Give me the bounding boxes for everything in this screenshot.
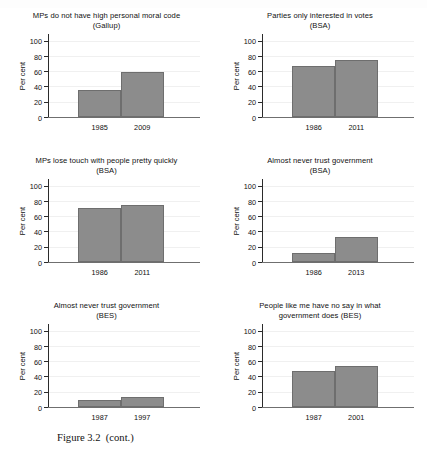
chart-title-line2: (Gallup) xyxy=(4,21,209,31)
x-tick-label: 2013 xyxy=(348,268,364,277)
plot-area-top-right: Per cent02040608010019862011 xyxy=(262,34,414,118)
y-axis-label: Per cent xyxy=(18,207,27,235)
chart-title-bottom-right: People like me have no say in whatgovern… xyxy=(217,301,423,320)
y-tick-label: 80 xyxy=(248,53,256,60)
chart-title-line2: (BSA) xyxy=(217,166,423,176)
bar-series xyxy=(48,324,200,407)
y-tick-label: 40 xyxy=(248,374,256,381)
chart-title-line2: government does (BES) xyxy=(217,311,423,321)
chart-title-line1: MPs do not have high personal moral code xyxy=(4,11,209,21)
y-tick-label: 60 xyxy=(34,69,42,76)
chart-panel-bottom-left: Almost never trust government(BES)Per ce… xyxy=(0,298,213,420)
chart-panel-middle-right: Almost never trust government(BSA)Per ce… xyxy=(213,153,427,298)
y-tick-label: 60 xyxy=(248,69,256,76)
bar xyxy=(78,208,121,262)
y-tick-label: 20 xyxy=(248,389,256,396)
x-tick-label: 1987 xyxy=(92,413,108,422)
x-tick-label: 1987 xyxy=(306,413,322,422)
y-tick-label: 100 xyxy=(244,328,256,335)
plot-area-bottom-right: Per cent02040608010019872001 xyxy=(262,324,414,408)
bar xyxy=(335,237,378,262)
x-tick-label: 1997 xyxy=(134,413,150,422)
x-tick-label: 1986 xyxy=(306,268,322,277)
y-tick-label: 100 xyxy=(244,38,256,45)
y-axis-label: Per cent xyxy=(232,352,241,380)
chart-title-line1: People like me have no say in what xyxy=(217,301,423,311)
chart-panel-middle-left: MPs lose touch with people pretty quickl… xyxy=(0,153,213,298)
chart-title-line1: Parties only interested in votes xyxy=(217,11,423,21)
bar-series xyxy=(262,179,414,262)
chart-panel-bottom-right: People like me have no say in whatgovern… xyxy=(213,298,427,420)
y-axis-label: Per cent xyxy=(232,62,241,90)
plot-area-middle-left: Per cent02040608010019862011 xyxy=(48,179,200,263)
y-tick-label: 40 xyxy=(248,229,256,236)
chart-title-middle-left: MPs lose touch with people pretty quickl… xyxy=(4,156,209,175)
y-tick-label: 60 xyxy=(248,359,256,366)
y-tick-label: 40 xyxy=(34,229,42,236)
chart-title-line1: Almost never trust government xyxy=(4,301,209,311)
chart-title-line2: (BSA) xyxy=(217,21,423,31)
x-tick-label: 1985 xyxy=(92,123,108,132)
y-tick-label: 40 xyxy=(248,84,256,91)
plot-area-bottom-left: Per cent02040608010019871997 xyxy=(48,324,200,408)
x-axis-line xyxy=(262,117,414,118)
bar-series xyxy=(48,179,200,262)
y-tick-label: 60 xyxy=(248,214,256,221)
y-tick-label: 80 xyxy=(248,343,256,350)
x-tick-label: 2011 xyxy=(348,123,364,132)
bar xyxy=(121,397,164,407)
bar xyxy=(121,205,164,262)
x-axis-line xyxy=(262,262,414,263)
y-tick-label: 80 xyxy=(248,198,256,205)
y-tick-label: 0 xyxy=(38,259,42,266)
chart-title-bottom-left: Almost never trust government(BES) xyxy=(4,301,209,320)
chart-panel-top-left: MPs do not have high personal moral code… xyxy=(0,8,213,153)
bar-series xyxy=(48,34,200,117)
plot-area-top-left: Per cent02040608010019852009 xyxy=(48,34,200,118)
bar xyxy=(78,90,121,117)
x-axis-line xyxy=(48,407,200,408)
y-tick-label: 100 xyxy=(244,183,256,190)
chart-title-top-left: MPs do not have high personal moral code… xyxy=(4,11,209,30)
bar-series xyxy=(262,34,414,117)
chart-title-top-right: Parties only interested in votes(BSA) xyxy=(217,11,423,30)
bar xyxy=(335,366,378,407)
bar xyxy=(292,66,335,117)
x-axis-line xyxy=(262,407,414,408)
y-tick-label: 0 xyxy=(252,114,256,121)
y-tick-label: 0 xyxy=(252,404,256,411)
y-axis-label: Per cent xyxy=(18,62,27,90)
figure-caption: Figure 3.2 (cont.) xyxy=(57,432,134,443)
scan-artifact-strip xyxy=(0,0,427,8)
y-tick-label: 80 xyxy=(34,343,42,350)
chart-title-line2: (BSA) xyxy=(4,166,209,176)
x-tick-label: 2009 xyxy=(134,123,150,132)
bar xyxy=(78,400,121,407)
x-tick-label: 2001 xyxy=(348,413,364,422)
x-axis-line xyxy=(48,262,200,263)
bar xyxy=(121,72,164,117)
chart-title-line2: (BES) xyxy=(4,311,209,321)
chart-panel-top-right: Parties only interested in votes(BSA)Per… xyxy=(213,8,427,153)
y-axis-label: Per cent xyxy=(18,352,27,380)
y-tick-label: 20 xyxy=(248,244,256,251)
y-tick-label: 60 xyxy=(34,359,42,366)
y-tick-label: 100 xyxy=(30,328,42,335)
figure-panel-grid: MPs do not have high personal moral code… xyxy=(0,8,427,420)
y-tick-label: 60 xyxy=(34,214,42,221)
x-tick-label: 1986 xyxy=(306,123,322,132)
x-tick-label: 1986 xyxy=(92,268,108,277)
plot-area-middle-right: Per cent02040608010019862013 xyxy=(262,179,414,263)
y-tick-label: 40 xyxy=(34,84,42,91)
y-tick-label: 80 xyxy=(34,53,42,60)
y-tick-label: 20 xyxy=(248,99,256,106)
chart-title-middle-right: Almost never trust government(BSA) xyxy=(217,156,423,175)
y-tick-label: 20 xyxy=(34,389,42,396)
y-tick-label: 0 xyxy=(252,259,256,266)
bar xyxy=(292,371,335,407)
y-tick-label: 0 xyxy=(38,114,42,121)
bar xyxy=(335,60,378,117)
y-tick-label: 0 xyxy=(38,404,42,411)
x-axis-line xyxy=(48,117,200,118)
y-tick-label: 100 xyxy=(30,38,42,45)
